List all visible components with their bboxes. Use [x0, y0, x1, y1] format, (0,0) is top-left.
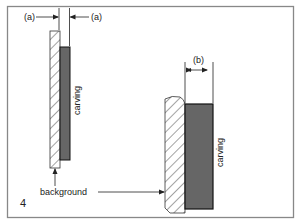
- right-carving-block: [185, 104, 213, 209]
- dimension-a-right-label: (a): [91, 12, 102, 22]
- dimension-b-label: (b): [193, 55, 204, 65]
- background-label: background: [40, 187, 87, 197]
- left-carving-block: [60, 47, 70, 160]
- right-background-hatched: [165, 96, 185, 213]
- left-piece: (a) (a) carving: [24, 8, 102, 186]
- left-carving-label: carving: [72, 86, 82, 115]
- right-piece: (b) carving: [98, 55, 225, 213]
- figure-number: 4: [20, 197, 26, 209]
- dimension-a-left-label: (a): [24, 12, 35, 22]
- left-background-hatched: [50, 31, 60, 168]
- relief-carving-depth-diagram: (a) (a) carving (b) carving background 4: [0, 0, 299, 221]
- right-carving-label: carving: [215, 138, 225, 167]
